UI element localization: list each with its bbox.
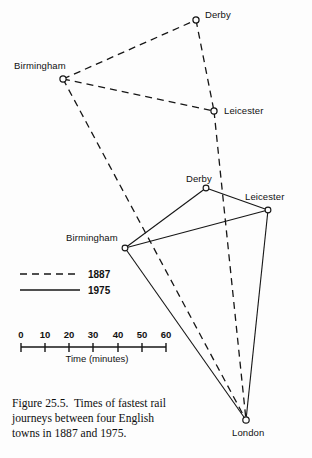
node-label-1975-birmingham: Birmingham: [66, 232, 118, 243]
node-1975-leicester: [265, 207, 271, 213]
scale-tick-label-60: 60: [161, 329, 172, 340]
node-label-london: London: [232, 427, 264, 438]
legend-label-1975: 1975: [88, 285, 111, 296]
figure-caption: Figure 25.5. Times of fastest rail journ…: [12, 396, 217, 442]
node-1887-leicester: [211, 108, 217, 114]
figure-container: Birmingham Derby Leicester Birmingham De…: [0, 0, 312, 458]
edge-1975-birmingham-leicester: [125, 210, 268, 248]
edge-1887-derby-leicester: [196, 20, 214, 111]
scale-tick-label-30: 30: [88, 329, 99, 340]
scale-tick-label-50: 50: [137, 329, 148, 340]
node-label-1887-birmingham: Birmingham: [14, 60, 66, 71]
caption-line-2: journeys between four English: [12, 411, 217, 426]
caption-line-3: towns in 1887 and 1975.: [12, 426, 217, 441]
edge-1887-birmingham-london: [63, 79, 246, 420]
scale-tick-label-20: 20: [64, 329, 75, 340]
network-1975: Birmingham Derby Leicester: [66, 173, 284, 420]
node-label-1975-leicester: Leicester: [245, 191, 284, 202]
node-label-1975-derby: Derby: [186, 173, 212, 184]
scale-tick-label-10: 10: [40, 329, 51, 340]
legend: 1887 1975: [20, 269, 111, 296]
edge-1887-birmingham-derby: [63, 20, 196, 79]
node-label-1887-leicester: Leicester: [224, 105, 263, 116]
node-1975-derby: [203, 185, 209, 191]
node-1975-birmingham: [122, 245, 128, 251]
edge-1887-leicester-london: [214, 111, 246, 420]
edge-1887-birmingham-leicester: [63, 79, 214, 111]
scale-bar: 0 10 20 30 40 50 60 Time (minutes): [18, 329, 171, 364]
scale-tick-label-0: 0: [18, 329, 23, 340]
caption-line-1: Figure 25.5. Times of fastest rail: [12, 396, 217, 411]
node-1887-derby: [193, 17, 199, 23]
scale-tick-label-40: 40: [113, 329, 124, 340]
network-1887: Birmingham Derby Leicester: [14, 9, 263, 420]
node-1887-birmingham: [60, 76, 66, 82]
rail-journey-network-diagram: Birmingham Derby Leicester Birmingham De…: [0, 0, 312, 458]
legend-label-1887: 1887: [88, 269, 111, 280]
node-label-1887-derby: Derby: [205, 9, 231, 20]
edge-1975-leicester-london: [246, 210, 268, 420]
node-shared-london: [243, 417, 249, 423]
scale-axis-label: Time (minutes): [66, 353, 129, 364]
node-group-london: London: [232, 417, 264, 438]
